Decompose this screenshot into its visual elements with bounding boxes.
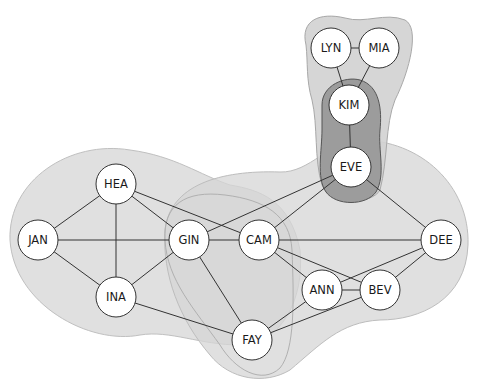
node-eve[interactable]: EVE bbox=[331, 147, 371, 187]
node-label: INA bbox=[106, 290, 126, 304]
node-ann[interactable]: ANN bbox=[302, 270, 342, 310]
node-lyn[interactable]: LYN bbox=[311, 28, 351, 68]
node-label: HEA bbox=[104, 177, 128, 191]
node-label: LYN bbox=[321, 41, 342, 55]
node-ina[interactable]: INA bbox=[96, 277, 136, 317]
node-mia[interactable]: MIA bbox=[359, 28, 399, 68]
region-right bbox=[165, 140, 468, 378]
node-label: EVE bbox=[340, 160, 362, 174]
node-label: KIM bbox=[339, 98, 360, 112]
node-kim[interactable]: KIM bbox=[329, 85, 369, 125]
node-dee[interactable]: DEE bbox=[421, 220, 461, 260]
node-label: BEV bbox=[368, 283, 391, 297]
node-cam[interactable]: CAM bbox=[239, 220, 279, 260]
node-hea[interactable]: HEA bbox=[96, 164, 136, 204]
network-diagram: LYNMIAKIMEVEHEAJANGINCAMDEEINAANNBEVFAY bbox=[0, 0, 479, 383]
node-label: JAN bbox=[27, 233, 48, 247]
node-jan[interactable]: JAN bbox=[18, 220, 58, 260]
node-bev[interactable]: BEV bbox=[360, 270, 400, 310]
node-gin[interactable]: GIN bbox=[169, 220, 209, 260]
node-label: GIN bbox=[179, 233, 200, 247]
community-regions bbox=[10, 16, 468, 378]
node-fay[interactable]: FAY bbox=[232, 320, 272, 360]
node-label: FAY bbox=[242, 333, 263, 347]
node-label: MIA bbox=[368, 41, 389, 55]
node-label: DEE bbox=[429, 233, 452, 247]
node-label: CAM bbox=[246, 233, 272, 247]
node-label: ANN bbox=[309, 283, 334, 297]
